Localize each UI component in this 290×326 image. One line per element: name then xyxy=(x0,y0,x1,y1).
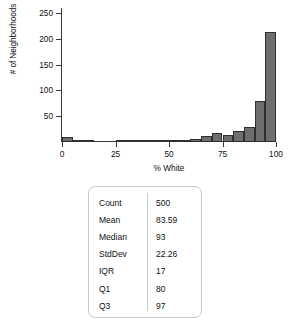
plot-bars xyxy=(62,8,276,142)
stat-row: Q397 xyxy=(89,297,201,314)
histogram-bar xyxy=(255,101,266,142)
x-axis-title: % White xyxy=(62,163,276,173)
x-tick-label: 25 xyxy=(101,149,131,159)
histogram-bar xyxy=(212,133,223,142)
stat-value: 83.59 xyxy=(147,215,201,225)
stat-value: 97 xyxy=(147,301,201,311)
histogram-bar xyxy=(223,135,234,142)
stat-label: IQR xyxy=(89,266,147,276)
histogram-bar xyxy=(169,140,180,142)
x-tick-label: 0 xyxy=(47,149,77,159)
x-tick-label: 75 xyxy=(208,149,238,159)
histogram-chart: # of Neighborhoods 50100150200250 025507… xyxy=(0,0,290,178)
y-axis-title: # of Neighborhoods xyxy=(8,0,18,94)
stat-row: Median93 xyxy=(89,228,201,245)
y-tick-label: 200 xyxy=(20,34,53,44)
stat-row: Q180 xyxy=(89,280,201,297)
stat-value: 80 xyxy=(147,284,201,294)
histogram-bar xyxy=(126,140,137,142)
stat-value: 22.26 xyxy=(147,249,201,259)
y-tick-label: 100 xyxy=(20,86,53,96)
summary-statistics-table: Count500Mean83.59Median93StdDev22.26IQR1… xyxy=(88,186,202,318)
stat-label: Q3 xyxy=(89,301,147,311)
stat-value: 93 xyxy=(147,232,201,242)
histogram-bar xyxy=(233,131,244,142)
histogram-bar xyxy=(137,140,148,142)
x-tick-mark xyxy=(116,142,117,147)
x-tick-label: 50 xyxy=(154,149,184,159)
stat-value: 500 xyxy=(147,198,201,208)
histogram-bar xyxy=(116,140,127,142)
x-tick-mark xyxy=(276,142,277,147)
stat-row: IQR17 xyxy=(89,263,201,280)
x-tick-mark xyxy=(223,142,224,147)
y-tick-label: 50 xyxy=(20,112,53,122)
x-tick-mark xyxy=(62,142,63,147)
histogram-bar xyxy=(158,140,169,142)
stat-label: Q1 xyxy=(89,284,147,294)
stat-value: 17 xyxy=(147,266,201,276)
histogram-bar xyxy=(180,140,191,142)
stat-label: StdDev xyxy=(89,249,147,259)
stat-row: Count500 xyxy=(89,194,201,211)
stat-row: Mean83.59 xyxy=(89,211,201,228)
y-tick-label: 250 xyxy=(20,9,53,19)
histogram-bar xyxy=(201,136,212,142)
histogram-bar xyxy=(244,127,255,142)
y-tick-mark xyxy=(56,90,61,91)
histogram-bar xyxy=(265,32,276,142)
y-tick-mark xyxy=(56,13,61,14)
histogram-bar xyxy=(190,139,201,142)
x-tick-label: 100 xyxy=(261,149,290,159)
stat-label: Count xyxy=(89,198,147,208)
histogram-bar xyxy=(83,140,94,142)
histogram-bar xyxy=(62,137,73,142)
stat-row: StdDev22.26 xyxy=(89,246,201,263)
y-tick-mark xyxy=(56,39,61,40)
histogram-bar xyxy=(148,140,159,142)
stat-label: Mean xyxy=(89,215,147,225)
histogram-bar xyxy=(73,140,84,142)
y-tick-label: 150 xyxy=(20,60,53,70)
x-tick-mark xyxy=(169,142,170,147)
y-tick-mark xyxy=(56,116,61,117)
y-tick-mark xyxy=(56,65,61,66)
stat-label: Median xyxy=(89,232,147,242)
